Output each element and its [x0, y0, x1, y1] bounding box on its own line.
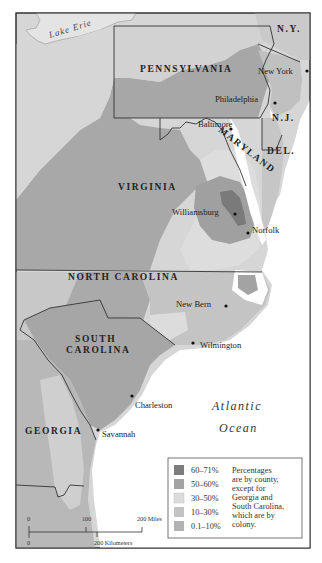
city-label: New Bern — [176, 299, 212, 309]
legend-note-7: colony. — [232, 520, 256, 529]
city-label: Charleston — [135, 400, 173, 410]
colonial-map: Lake Erie Atlantic Ocean N.Y. PENNSYLVAN… — [0, 0, 322, 563]
ocean-label-line2: Ocean — [219, 421, 258, 435]
legend-note-4: Georgia and — [232, 493, 273, 502]
scale-km-200: 200 Kilometers — [94, 539, 133, 546]
city-label: Savannah — [102, 429, 136, 439]
legend-label-50-60: 50–60% — [191, 480, 219, 489]
city-label: Wilmington — [200, 340, 242, 350]
city-dot — [224, 304, 227, 307]
legend-note-1: Percentages — [232, 466, 272, 475]
legend-note-6: which are by — [232, 511, 276, 520]
scale-miles-0: 0 — [27, 515, 30, 522]
label-georgia: GEORGIA — [25, 426, 82, 436]
legend-note-3: except for — [232, 484, 266, 493]
city-savannah: Savannah — [96, 428, 136, 439]
city-dot — [191, 341, 194, 344]
legend-label-10-30: 10–30% — [191, 508, 219, 517]
legend-swatch-30-50 — [174, 493, 184, 503]
legend-label-60-71: 60–71% — [191, 466, 219, 475]
legend-swatch-10-30 — [174, 507, 184, 517]
city-dot — [96, 428, 99, 431]
legend-label-30-50: 30–50% — [191, 494, 219, 503]
city-dot — [246, 231, 249, 234]
legend-note-5: South Carolina, — [232, 502, 284, 511]
city-baltimore: Baltimore — [198, 119, 233, 131]
label-virginia: VIRGINIA — [118, 182, 177, 192]
legend-swatch-60-71 — [174, 465, 184, 475]
label-south-carolina-1: SOUTH — [75, 334, 116, 344]
city-label: Norfolk — [252, 225, 280, 235]
city-label: Baltimore — [198, 119, 233, 129]
city-dot — [233, 212, 236, 215]
legend: 60–71% 50–60% 30–50% 10–30% 0.1–10% Perc… — [168, 458, 302, 538]
legend-swatch-50-60 — [174, 479, 184, 489]
scale-miles-100: 100 — [82, 515, 91, 522]
city-label: New York — [258, 66, 294, 76]
label-north-carolina: NORTH CAROLINA — [68, 272, 179, 282]
ocean-label-line1: Atlantic — [211, 399, 262, 413]
city-label: Philadelphia — [215, 94, 258, 104]
scale-km-0: 0 — [27, 539, 30, 546]
legend-label-01-10: 0.1–10% — [191, 522, 221, 531]
legend-note-2: are by county, — [232, 475, 279, 484]
city-norfolk: Norfolk — [246, 225, 280, 235]
city-dot — [305, 69, 308, 72]
label-south-carolina-2: CAROLINA — [66, 345, 131, 355]
city-label: Williamsburg — [172, 207, 219, 217]
label-new-jersey: N.J. — [272, 113, 295, 123]
city-dot — [130, 394, 133, 397]
label-delaware: DEL. — [267, 146, 295, 156]
legend-swatch-01-10 — [174, 521, 184, 531]
city-dot — [273, 101, 276, 104]
label-new-york: N.Y. — [277, 24, 301, 34]
label-pennsylvania: PENNSYLVANIA — [140, 64, 233, 74]
scale-miles-200: 200 Miles — [137, 515, 163, 522]
